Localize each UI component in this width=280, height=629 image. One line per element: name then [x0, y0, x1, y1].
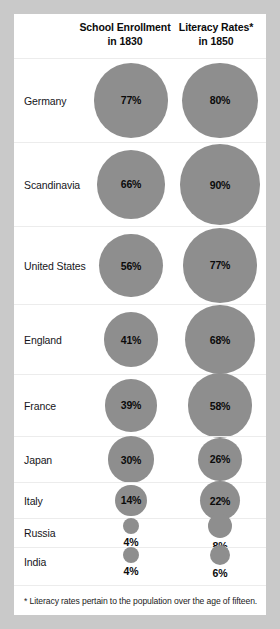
column-header-enrollment-line2: in 1830	[76, 35, 174, 49]
table-row: England41%68%	[14, 304, 266, 374]
bubble-value: 41%	[121, 334, 141, 346]
bubble-value: 66%	[121, 178, 141, 190]
table-row: Germany77%80%	[14, 58, 266, 142]
column-headers: School Enrollment in 1830 Literacy Rates…	[14, 14, 266, 58]
country-label: Russia	[24, 527, 56, 539]
country-label: France	[24, 400, 56, 412]
bubble-cell: 90%	[178, 143, 262, 226]
bubble-cell: 22%	[178, 483, 262, 518]
bubble-value: 14%	[121, 494, 141, 506]
bubble: 30%	[108, 436, 154, 482]
bubble-value: 80%	[210, 94, 230, 106]
bubble-value: 77%	[121, 94, 141, 106]
bubble: 66%	[97, 150, 166, 219]
bubble	[210, 545, 231, 566]
bubble-value: 90%	[210, 179, 230, 191]
table-row: Russia4%8%	[14, 518, 266, 547]
bubble-value: 56%	[121, 260, 141, 272]
bubble: 14%	[115, 485, 147, 517]
footnote-text: * Literacy rates pertain to the populati…	[14, 596, 257, 606]
bubble-cell: 8%	[178, 519, 262, 547]
bubble-value: 68%	[210, 334, 230, 346]
column-header-literacy-line2: in 1850	[170, 35, 262, 49]
bubble: 56%	[99, 234, 162, 297]
country-label: Germany	[24, 95, 66, 107]
bubble	[123, 547, 140, 564]
column-header-literacy-line1: Literacy Rates*	[170, 21, 262, 35]
country-label: Scandinavia	[24, 179, 80, 191]
chart-rows: Germany77%80%Scandinavia66%90%United Sta…	[14, 58, 266, 576]
table-row: Japan30%26%	[14, 436, 266, 482]
bubble-cell: 30%	[94, 437, 168, 482]
bubble	[123, 518, 140, 535]
chart-card: School Enrollment in 1830 Literacy Rates…	[14, 14, 266, 615]
column-header-enrollment-line1: School Enrollment	[76, 21, 174, 35]
column-header-enrollment: School Enrollment in 1830	[76, 21, 174, 49]
table-row: United States56%77%	[14, 226, 266, 304]
bubble-cell: 68%	[178, 305, 262, 374]
country-label: England	[24, 334, 62, 346]
bubble-cell: 41%	[94, 305, 168, 374]
bubble-value: 30%	[121, 454, 141, 466]
table-row: India4%6%	[14, 547, 266, 576]
bubble-cell: 4%	[94, 519, 168, 547]
bubble-cell: 77%	[94, 59, 168, 142]
bubble-cell: 66%	[94, 143, 168, 226]
bubble-cell: 26%	[178, 437, 262, 482]
bubble-cell: 80%	[178, 59, 262, 142]
bubble-value: 26%	[210, 453, 230, 465]
bubble: 41%	[104, 312, 158, 366]
table-row: Scandinavia66%90%	[14, 142, 266, 226]
bubble-cell: 58%	[178, 375, 262, 436]
bubble-cell: 14%	[94, 483, 168, 518]
bubble-cell: 6%	[178, 548, 262, 576]
country-label: Italy	[24, 495, 43, 507]
bubble-cell: 4%	[94, 548, 168, 576]
bubble-value: 58%	[210, 400, 230, 412]
bubble: 77%	[94, 63, 168, 137]
bubble: 80%	[182, 63, 258, 139]
column-header-literacy: Literacy Rates* in 1850	[170, 21, 262, 49]
bubble: 68%	[185, 305, 255, 375]
bubble: 26%	[198, 438, 241, 481]
footnote: * Literacy rates pertain to the populati…	[14, 585, 266, 615]
bubble-value: 22%	[210, 495, 230, 507]
bubble-cell: 56%	[94, 227, 168, 304]
bubble-value: 6%	[213, 567, 228, 579]
country-label: Japan	[24, 454, 52, 466]
bubble: 77%	[183, 228, 257, 302]
table-row: Italy14%22%	[14, 482, 266, 518]
bubble-value: 39%	[121, 399, 141, 411]
table-row: France39%58%	[14, 374, 266, 436]
bubble: 90%	[180, 144, 260, 224]
bubble-value: 4%	[124, 565, 139, 577]
bubble: 58%	[188, 373, 252, 437]
country-label: United States	[24, 260, 86, 272]
bubble: 39%	[105, 379, 158, 432]
bubble-value: 77%	[210, 259, 230, 271]
bubble	[208, 514, 232, 538]
bubble-cell: 77%	[178, 227, 262, 304]
country-label: India	[24, 556, 46, 568]
bubble-cell: 39%	[94, 375, 168, 436]
